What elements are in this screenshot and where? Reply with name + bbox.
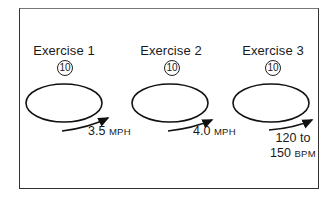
track-oval-icon <box>132 84 208 122</box>
exercise-2-title: Exercise 2 <box>126 43 216 58</box>
track-illustrations <box>0 0 336 199</box>
exercise-3-title: Exercise 3 <box>228 43 318 58</box>
exercise-1-speed: 3.5 MPH <box>88 124 131 138</box>
exercise-1-reps-badge: 10 <box>57 60 73 76</box>
exercise-2-reps-badge: 10 <box>164 60 180 76</box>
exercise-3-reps-badge: 10 <box>265 60 281 76</box>
track-oval-icon <box>233 84 309 122</box>
exercise-3-heart-rate: 120 to 150 BPM <box>266 131 320 161</box>
track-oval-icon <box>26 84 102 122</box>
exercise-1-title: Exercise 1 <box>19 43 109 58</box>
exercise-2-speed: 4.0 MPH <box>193 124 236 138</box>
